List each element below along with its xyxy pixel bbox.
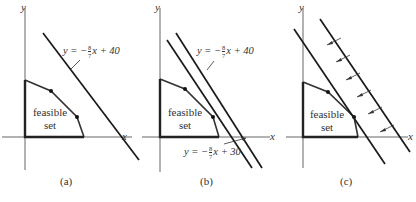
- vertex-dot: [211, 115, 215, 119]
- x-axis-label: x: [270, 130, 275, 142]
- vertex-dot: [75, 115, 79, 119]
- y-axis-label: y: [299, 1, 304, 13]
- line-equation-label: y = −87x + 40: [63, 44, 120, 59]
- panel-a: [2, 8, 139, 170]
- panel-c: [286, 8, 410, 168]
- caption-a: (a): [60, 175, 72, 187]
- feasible-set-label: feasible set: [307, 108, 347, 134]
- label-pointer: [207, 61, 214, 70]
- arrow-icon: [368, 107, 382, 114]
- y-axis-label: y: [21, 1, 26, 13]
- feasible-set-label: feasible set: [30, 106, 70, 132]
- arrow-icon: [357, 90, 371, 97]
- vertex-dot: [326, 90, 330, 94]
- line-equation-label-40: y = −87x + 40: [197, 44, 254, 59]
- vertex-dot: [183, 87, 187, 91]
- caption-c: (c): [340, 175, 352, 187]
- label-pointer: [71, 60, 80, 69]
- x-axis-label: x: [122, 130, 127, 142]
- line-equation-label-30: y = −87x + 30: [184, 145, 241, 160]
- feasible-set-label: feasible set: [165, 106, 205, 132]
- diagram-canvas: [0, 0, 416, 202]
- y-axis-label: y: [155, 1, 160, 13]
- arrow-icon: [380, 125, 394, 132]
- caption-b: (b): [200, 175, 213, 187]
- vertex-dot: [49, 89, 53, 93]
- x-axis-label: x: [408, 130, 413, 142]
